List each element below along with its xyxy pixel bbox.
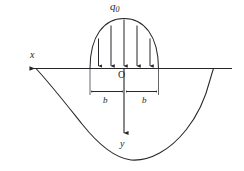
load-arrow-group [99,20,151,67]
half-width-label-left: b [103,96,108,105]
halfspace-boundary-curve [36,69,214,161]
y-axis-label: y [120,139,124,149]
engineering-diagram: q0 x y O b b [0,0,244,171]
x-axis-label: x [30,50,34,60]
half-width-label-right: b [142,96,147,105]
origin-label: O [118,70,125,80]
load-magnitude-label: q0 [110,1,120,14]
load-subscript: 0 [116,5,120,14]
